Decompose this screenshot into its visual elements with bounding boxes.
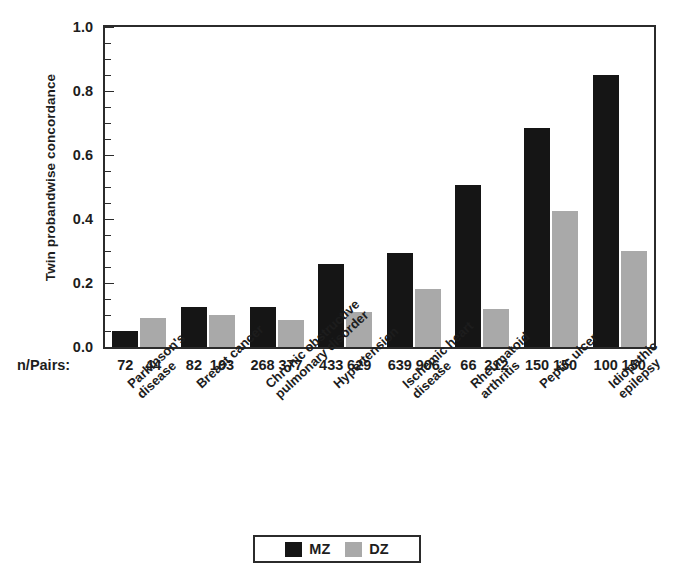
- y-tick-label: 0.2: [73, 275, 93, 291]
- bar-mz: [593, 75, 619, 347]
- bar-dz: [483, 309, 509, 347]
- y-tick-label: 0.8: [73, 83, 93, 99]
- bar-group: [318, 27, 372, 347]
- y-tick-major: [105, 347, 114, 348]
- legend-swatch-dz: [345, 542, 362, 557]
- bar-group: [455, 27, 509, 347]
- bar-dz: [278, 320, 304, 347]
- bar-dz: [415, 289, 441, 347]
- bar-mz: [112, 331, 138, 347]
- legend-label-dz: DZ: [369, 541, 388, 557]
- bar-group: [387, 27, 441, 347]
- bar-mz: [524, 128, 550, 347]
- bar-group: [181, 27, 235, 347]
- bar-dz: [140, 318, 166, 347]
- y-tick-label: 0.6: [73, 147, 93, 163]
- bar-group: [112, 27, 166, 347]
- legend-item-mz: MZ: [285, 541, 330, 557]
- y-tick-label: 0.0: [73, 339, 93, 355]
- bar-group: [524, 27, 578, 347]
- legend-swatch-mz: [285, 542, 302, 557]
- chart-legend: MZ DZ: [253, 535, 421, 563]
- bar-dz: [621, 251, 647, 347]
- y-tick-label: 0.4: [73, 211, 93, 227]
- bar-dz: [209, 315, 235, 347]
- npairs-row-label: n/Pairs:: [17, 357, 70, 373]
- plot-area: [103, 25, 656, 349]
- bar-series-container: [105, 27, 654, 347]
- bar-group: [593, 27, 647, 347]
- y-axis-tick-labels: 0.00.20.40.60.81.0: [0, 0, 103, 583]
- y-tick-label: 1.0: [73, 19, 93, 35]
- bar-group: [250, 27, 304, 347]
- legend-item-dz: DZ: [345, 541, 388, 557]
- bar-dz: [552, 211, 578, 347]
- legend-label-mz: MZ: [309, 541, 330, 557]
